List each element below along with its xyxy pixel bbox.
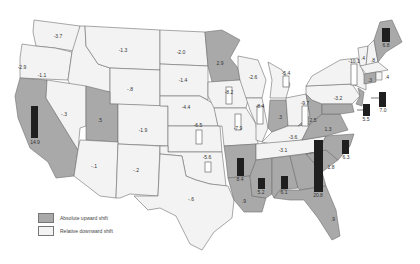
bar-ga: [314, 140, 323, 192]
state-az: [74, 140, 118, 198]
bar-mi: [283, 76, 289, 87]
bar-ar: [237, 158, 244, 176]
map-legend: Absolute upward shift Relative downward …: [38, 212, 113, 238]
bar-al: [281, 176, 288, 189]
label-nh: .8: [371, 57, 375, 63]
label-mo: -7.9: [234, 125, 243, 131]
label-ks: -6.5: [194, 122, 203, 128]
label-ca: 14.9: [30, 139, 40, 145]
state-mn: [205, 30, 240, 82]
state-wy: [110, 68, 160, 106]
label-pa: -3.2: [334, 95, 343, 101]
label-ny: -10.1: [348, 58, 359, 64]
downward-swatch: [38, 226, 54, 236]
state-ri: [376, 72, 382, 80]
label-ne: -4.4: [182, 104, 191, 110]
label-ky: -3.6: [289, 134, 298, 140]
label-la: .9: [242, 198, 246, 204]
label-nv: -.3: [61, 111, 67, 117]
label-md: 5.5: [363, 116, 370, 122]
state-co: [118, 104, 168, 146]
bar-me: [382, 28, 390, 42]
bar-ok: [205, 162, 211, 172]
upward-swatch: [38, 213, 54, 223]
label-al: 6.1: [281, 189, 288, 195]
label-in: .3: [278, 114, 282, 120]
legend-label-upward: Absolute upward shift: [60, 215, 108, 221]
label-or: -2.9: [18, 64, 27, 70]
bar-ks: [196, 130, 202, 144]
bar-nj: [379, 92, 386, 107]
bar-ny: [351, 64, 357, 85]
label-wa: -3.7: [54, 33, 63, 39]
label-va: 1.3: [325, 126, 332, 132]
label-ut: .5: [98, 117, 102, 123]
bar-ca: [31, 106, 38, 138]
label-sd: -1.4: [179, 77, 188, 83]
label-nm: -.2: [133, 167, 139, 173]
label-wy: -.8: [127, 86, 133, 92]
label-fl: .9: [331, 216, 335, 222]
label-co: -1.9: [139, 127, 148, 133]
label-nj: 7.0: [380, 107, 387, 113]
legend-item-downward: Relative downward shift: [38, 225, 113, 237]
label-vt: .4: [361, 55, 365, 61]
label-il: -8.4: [256, 103, 265, 109]
state-nd: [160, 30, 208, 66]
label-tn: -3.1: [279, 147, 288, 153]
label-nd: -2.0: [177, 49, 186, 55]
label-tx: -.6: [188, 196, 194, 202]
label-ia: -8.2: [225, 89, 234, 95]
label-wv: 2.5: [310, 117, 317, 123]
label-ct: .3: [368, 77, 372, 83]
label-mi: -5.4: [282, 70, 291, 76]
label-sc: 1.8: [328, 164, 335, 170]
label-ms: 5.2: [258, 189, 265, 195]
state-ne: [160, 96, 218, 126]
label-ga: 20.8: [313, 192, 323, 198]
bar-nc: [342, 140, 349, 154]
bar-oh: [302, 106, 308, 126]
state-pa: [306, 84, 360, 104]
label-ar: 8.4: [237, 176, 244, 182]
bar-ms: [258, 178, 265, 189]
label-mn: 2.9: [217, 60, 224, 66]
label-ma: .4: [385, 74, 389, 80]
label-mt: -1.3: [119, 47, 128, 53]
label-nc: 6.3: [343, 154, 350, 160]
label-ok: -5.6: [203, 154, 212, 160]
legend-item-upward: Absolute upward shift: [38, 212, 113, 224]
legend-label-downward: Relative downward shift: [60, 228, 113, 234]
label-me: 6.8: [383, 42, 390, 48]
state-md: [322, 104, 354, 114]
label-wi: -2.6: [249, 74, 258, 80]
bar-md: [363, 104, 370, 116]
label-az: -.1: [91, 163, 97, 169]
label-oh: -9.7: [301, 100, 310, 106]
state-ks: [168, 126, 222, 152]
label-id: -1.1: [38, 72, 47, 78]
